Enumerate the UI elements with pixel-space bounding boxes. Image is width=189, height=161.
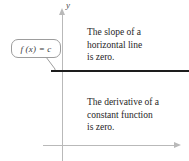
note-derivative-constant-function: The derivative of a constant function is… xyxy=(87,96,159,134)
note-slope-horizontal-line: The slope of a horizontal line is zero. xyxy=(87,26,142,64)
note-bottom-line-3: is zero. xyxy=(87,121,159,134)
x-axis-arrow-icon xyxy=(174,142,181,148)
function-callout-box: f (x) = c xyxy=(11,39,61,58)
note-top-line-3: is zero. xyxy=(87,51,142,64)
constant-function-line xyxy=(51,70,189,72)
x-axis-line xyxy=(43,145,176,146)
note-bottom-line-1: The derivative of a xyxy=(87,96,159,109)
note-bottom-line-2: constant function xyxy=(87,109,159,122)
constant-function-figure: y f (x) = c The slope of a horizontal li… xyxy=(0,0,189,161)
function-callout-label: f (x) = c xyxy=(20,44,51,54)
note-top-line-2: horizontal line xyxy=(87,39,142,52)
note-top-line-1: The slope of a xyxy=(87,26,142,39)
callout-tail-icon xyxy=(42,57,56,71)
y-axis-line xyxy=(62,12,63,161)
y-axis-label: y xyxy=(66,0,70,11)
